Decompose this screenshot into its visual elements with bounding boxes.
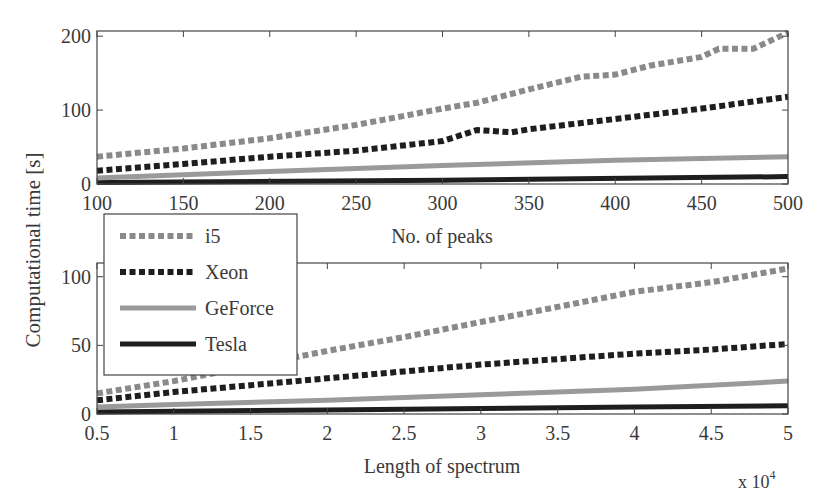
top-x-ticks: 100150200250300350400450500 — [82, 31, 803, 214]
x-tick-label: 4.5 — [699, 422, 724, 444]
legend-label-geforce: GeForce — [205, 297, 274, 319]
x-tick-label: 300 — [428, 192, 458, 214]
x-tick-label: 400 — [600, 192, 630, 214]
y-tick-label: 0 — [81, 173, 91, 195]
x-tick-label: 5 — [783, 422, 793, 444]
y-tick-label: 50 — [71, 334, 91, 356]
legend-label-xeon: Xeon — [205, 261, 248, 283]
x-tick-label: 2.5 — [392, 422, 417, 444]
figure: 100150200250300350400450500 0100200 No. … — [0, 0, 818, 501]
y-tick-label: 100 — [61, 99, 91, 121]
x-tick-label: 1.5 — [238, 422, 263, 444]
y-tick-label: 200 — [61, 25, 91, 47]
x-tick-label: 500 — [773, 192, 803, 214]
legend-label-i5: i5 — [205, 225, 221, 247]
x-tick-label: 250 — [341, 192, 371, 214]
series-line-geforce — [97, 381, 788, 407]
y-tick-label: 100 — [61, 266, 91, 288]
x-tick-label: 4 — [629, 422, 639, 444]
x-tick-label: 1 — [169, 422, 179, 444]
top-series-group — [97, 33, 788, 183]
x-multiplier-label: x 104 — [738, 468, 776, 492]
series-line-geforce — [97, 157, 788, 178]
x-tick-label: 150 — [168, 192, 198, 214]
y-axis-label: Computational time [s] — [21, 153, 45, 348]
x-tick-label: 3 — [476, 422, 486, 444]
top-x-axis-label: No. of peaks — [391, 225, 493, 248]
top-y-ticks: 0100200 — [61, 25, 788, 195]
x-tick-label: 450 — [687, 192, 717, 214]
series-line-tesla — [97, 406, 788, 412]
legend-label-tesla: Tesla — [205, 333, 247, 355]
x-tick-label: 350 — [514, 192, 544, 214]
x-tick-label: 200 — [255, 192, 285, 214]
x-tick-label: 0.5 — [85, 422, 110, 444]
x-tick-label: 2 — [322, 422, 332, 444]
x-tick-label: 3.5 — [545, 422, 570, 444]
bottom-x-axis-label: Length of spectrum — [364, 455, 521, 478]
legend: i5XeonGeForceTesla — [104, 214, 297, 375]
y-tick-label: 0 — [81, 403, 91, 425]
x-tick-label: 100 — [82, 192, 112, 214]
